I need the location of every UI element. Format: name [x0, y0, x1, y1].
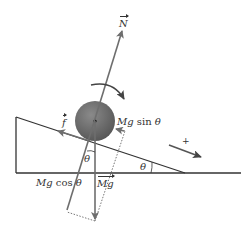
gravity-label: Mg [97, 179, 114, 189]
normal-force-label: N [119, 19, 128, 29]
ball-angle-arc [87, 151, 95, 152]
incline-angle-label: θ [140, 162, 146, 172]
component-rectangle [67, 129, 125, 221]
positive-direction-arrow [169, 145, 201, 157]
incline-angle-arc [151, 162, 152, 173]
rotation-arrow [91, 84, 124, 99]
gravity-parallel-arrow [116, 129, 124, 131]
gravity-perpendicular-label: Mg cos θ [36, 178, 82, 188]
incline-diagram: N f Mg sin θ Mg cos θ Mg θ θ + [0, 0, 251, 235]
friction-label: f [62, 118, 66, 128]
gravity-parallel-label: Mg sin θ [117, 117, 161, 127]
ball-angle-label: θ [84, 154, 90, 164]
positive-direction-label: + [182, 137, 190, 146]
